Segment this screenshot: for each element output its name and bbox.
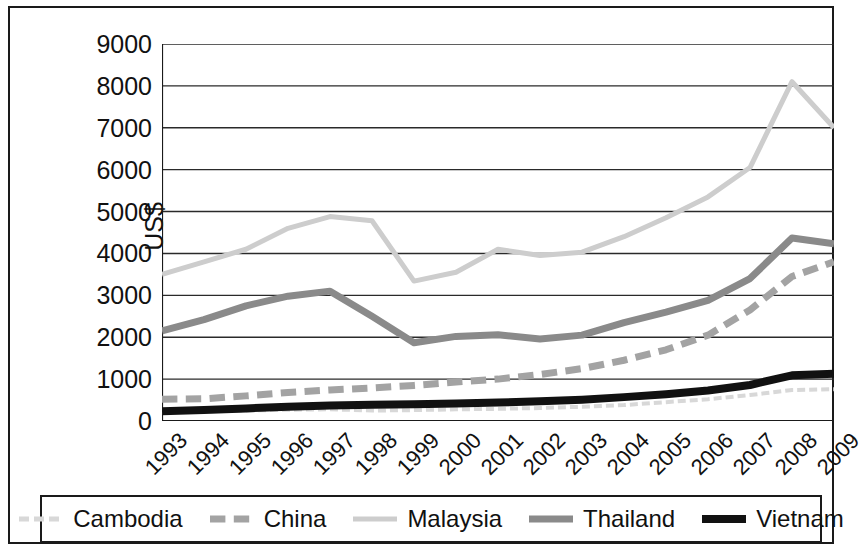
legend-label: Cambodia (73, 507, 182, 531)
x-axis-tick-label: 1998 (351, 429, 401, 479)
series-lines (162, 82, 834, 413)
legend-label: China (264, 507, 327, 531)
x-axis-tick-label: 2000 (435, 429, 485, 479)
legend-entry-thailand[interactable]: Thailand (528, 507, 675, 531)
y-axis-tick-label: 6000 (96, 157, 152, 182)
y-axis-tick-label: 1000 (96, 367, 152, 392)
y-axis-tick-label: 3000 (96, 283, 152, 308)
y-axis-tick-label: 7000 (96, 115, 152, 140)
plot-svg (162, 44, 834, 421)
y-axis-tick-label: 4000 (96, 241, 152, 266)
x-axis-tick-label: 1999 (393, 429, 443, 479)
gridlines (162, 44, 834, 379)
x-axis-tick-label: 1996 (267, 429, 317, 479)
legend-entry-malaysia[interactable]: Malaysia (352, 507, 502, 531)
x-axis-tick-label: 2009 (813, 429, 863, 479)
series-line-malaysia (162, 82, 834, 281)
y-axis-tick-label: 2000 (96, 325, 152, 350)
x-axis-tick-label: 1993 (141, 429, 191, 479)
x-axis-tick-label: 2001 (477, 429, 527, 479)
plot-area: US$ 900080007000600050004000300020001000… (162, 44, 834, 421)
y-axis-tick-label: 8000 (96, 73, 152, 98)
x-axis-tick-label: 2006 (687, 429, 737, 479)
legend-label: Thailand (583, 507, 675, 531)
legend-swatch-thailand (528, 512, 574, 526)
chart-legend: CambodiaChinaMalaysiaThailandVietnam (40, 495, 822, 543)
x-axis-tick-label: 2004 (603, 429, 653, 479)
x-axis-tick-label: 1994 (183, 429, 233, 479)
x-axis-tick-label: 2008 (771, 429, 821, 479)
x-axis-tick-label: 2005 (645, 429, 695, 479)
legend-swatch-china (209, 512, 255, 526)
legend-swatch-vietnam (701, 512, 747, 526)
legend-entry-cambodia[interactable]: Cambodia (18, 507, 182, 531)
legend-entry-china[interactable]: China (209, 507, 327, 531)
legend-label: Vietnam (756, 507, 844, 531)
x-axis-tick-label: 2003 (561, 429, 611, 479)
axis-lines (162, 44, 834, 421)
figure-frame: US$ 900080007000600050004000300020001000… (8, 6, 834, 544)
x-axis-tick-label: 1997 (309, 429, 359, 479)
y-axis-tick-label: 9000 (96, 32, 152, 57)
y-axis-tick-label: 5000 (96, 199, 152, 224)
x-axis-tick-label: 2007 (729, 429, 779, 479)
legend-swatch-cambodia (18, 512, 64, 526)
x-axis-tick-label: 2002 (519, 429, 569, 479)
legend-label: Malaysia (407, 507, 502, 531)
legend-entry-vietnam[interactable]: Vietnam (701, 507, 844, 531)
y-axis-tick-label: 0 (138, 409, 152, 434)
legend-swatch-malaysia (352, 512, 398, 526)
x-axis-tick-label: 1995 (225, 429, 275, 479)
